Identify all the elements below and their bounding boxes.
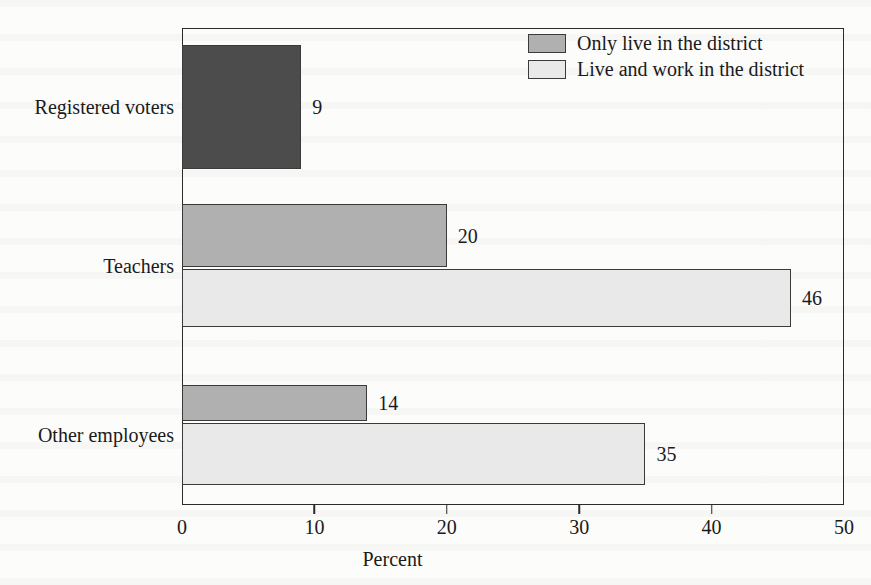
bar-value-label: 20 xyxy=(458,226,478,246)
bar xyxy=(182,204,447,267)
x-axis-title: Percent xyxy=(0,548,871,571)
bar-fill xyxy=(183,46,300,168)
x-axis-tick-label: 50 xyxy=(834,516,854,539)
legend-label: Only live in the district xyxy=(577,33,763,53)
legend-swatch xyxy=(528,60,566,79)
bar-value-label: 9 xyxy=(312,97,322,117)
bar-value-label: 46 xyxy=(802,288,822,308)
legend-item: Only live in the district xyxy=(528,33,804,53)
legend-item: Live and work in the district xyxy=(528,59,804,79)
bar-value-label: 35 xyxy=(656,444,676,464)
legend-label: Live and work in the district xyxy=(577,59,804,79)
x-axis-tick xyxy=(711,505,713,514)
category-label: Teachers xyxy=(0,255,174,278)
bar xyxy=(182,423,645,485)
bars-layer xyxy=(182,28,844,505)
x-axis-tick xyxy=(446,505,448,514)
x-axis-tick-label: 0 xyxy=(177,516,187,539)
bar-value-label: 14 xyxy=(378,393,398,413)
bar-fill xyxy=(183,270,790,326)
bar xyxy=(182,269,791,327)
legend-swatch xyxy=(528,34,566,53)
bar-fill xyxy=(183,205,446,266)
category-label: Registered voters xyxy=(0,96,174,119)
x-axis-tick-label: 20 xyxy=(437,516,457,539)
bar-fill xyxy=(183,424,644,484)
bar xyxy=(182,45,301,169)
bar-chart-figure: 920461435 Registered votersTeachersOther… xyxy=(0,0,871,585)
bar-fill xyxy=(183,386,366,420)
x-axis-tick-label: 40 xyxy=(702,516,722,539)
x-axis-title-text: Percent xyxy=(363,548,423,570)
category-label: Other employees xyxy=(0,424,174,447)
legend: Only live in the districtLive and work i… xyxy=(528,33,804,79)
x-axis-tick-label: 10 xyxy=(304,516,324,539)
x-axis-tick xyxy=(578,505,580,514)
bar xyxy=(182,385,367,421)
x-axis-tick xyxy=(314,505,316,514)
x-axis-tick-label: 30 xyxy=(569,516,589,539)
